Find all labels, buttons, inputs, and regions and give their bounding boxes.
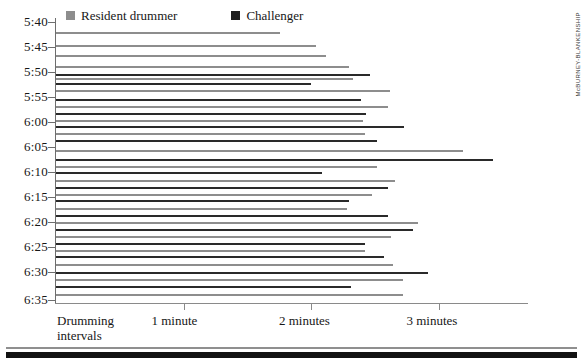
y-axis-tick-label: 5:50 — [0, 65, 48, 78]
y-axis-tick-label: 5:45 — [0, 40, 48, 53]
bar-challenger — [56, 140, 377, 142]
bar-resident-drummer — [56, 236, 391, 238]
bar-resident-drummer — [56, 279, 403, 281]
y-axis-tick-mark — [48, 122, 55, 123]
bar-challenger — [56, 187, 388, 189]
bar-challenger — [56, 159, 493, 161]
y-axis-tick-mark — [48, 197, 55, 198]
x-axis-origin-label-line2: intervals — [57, 328, 127, 343]
y-axis-tick-mark — [48, 300, 55, 301]
x-axis-tick-label: 1 minute — [152, 313, 198, 328]
bar-challenger — [56, 83, 311, 85]
bar-resident-drummer — [56, 106, 388, 108]
y-axis-tick-label: 6:25 — [0, 240, 48, 253]
bar-resident-drummer — [56, 250, 365, 252]
bar-resident-drummer — [56, 180, 395, 182]
y-axis-tick-label: 6:30 — [0, 265, 48, 278]
y-axis-tick-mark — [48, 97, 55, 98]
bar-challenger — [56, 172, 322, 174]
bar-resident-drummer — [56, 150, 463, 152]
x-axis-line — [55, 303, 528, 304]
legend-label-resident: Resident drummer — [81, 9, 177, 22]
chart-legend: Resident drummer Challenger — [66, 9, 303, 22]
bar-resident-drummer — [56, 78, 353, 80]
y-axis-tick-label: 6:10 — [0, 165, 48, 178]
bar-challenger — [56, 113, 366, 115]
y-axis-tick-label: 5:40 — [0, 15, 48, 28]
bar-resident-drummer — [56, 166, 377, 168]
x-axis-tick-mark — [311, 303, 312, 310]
y-axis-tick-label: 6:35 — [0, 293, 48, 306]
bar-resident-drummer — [56, 133, 365, 135]
bar-challenger — [56, 229, 413, 231]
y-axis-tick-label: 6:15 — [0, 190, 48, 203]
bottom-rule-thick — [6, 352, 577, 358]
y-axis-tick-mark — [48, 172, 55, 173]
x-axis-tick-label: Drummingintervals — [57, 313, 127, 343]
chart-container: 5:405:455:505:556:006:056:106:156:206:25… — [0, 0, 583, 363]
x-axis-tick-mark — [439, 303, 440, 310]
bar-challenger — [56, 126, 404, 128]
bar-resident-drummer — [56, 120, 363, 122]
x-axis-tick-label: 3 minutes — [407, 313, 458, 328]
bar-challenger — [56, 286, 351, 288]
legend-label-challenger: Challenger — [246, 9, 303, 22]
y-axis-tick-mark — [48, 22, 55, 23]
bar-resident-drummer — [56, 294, 403, 296]
y-axis-tick-label: 6:00 — [0, 115, 48, 128]
y-axis-tick-label: 6:05 — [0, 140, 48, 153]
legend-item-resident-drummer: Resident drummer — [66, 9, 177, 22]
y-axis-tick-mark — [48, 247, 55, 248]
x-axis-tick-label: 2 minutes — [279, 313, 330, 328]
y-axis-tick-mark — [48, 47, 55, 48]
y-axis-tick-mark — [48, 272, 55, 273]
legend-swatch-resident-icon — [66, 11, 75, 20]
x-axis-origin-label-line1: Drumming — [57, 313, 127, 328]
bottom-rule-thin — [6, 347, 577, 349]
photo-credit: McBURNEY-BLANKENSHIP — [575, 12, 581, 96]
bar-challenger — [56, 243, 365, 245]
bar-resident-drummer — [56, 264, 393, 266]
bar-challenger — [56, 200, 349, 202]
bar-resident-drummer — [56, 208, 347, 210]
y-axis-tick-mark — [48, 72, 55, 73]
bar-resident-drummer — [56, 222, 418, 224]
bar-resident-drummer — [56, 194, 372, 196]
x-axis-tick-mark — [184, 303, 185, 310]
bar-resident-drummer — [56, 32, 280, 34]
y-axis-tick-label: 6:20 — [0, 215, 48, 228]
bar-challenger — [56, 74, 370, 76]
bar-resident-drummer — [56, 90, 390, 92]
y-axis-tick-mark — [48, 147, 55, 148]
bar-challenger — [56, 256, 384, 258]
bar-resident-drummer — [56, 45, 316, 47]
bar-challenger — [56, 272, 428, 274]
legend-swatch-challenger-icon — [231, 11, 240, 20]
bar-challenger — [56, 99, 361, 101]
plot-area: 5:405:455:505:556:006:056:106:156:206:25… — [0, 0, 583, 363]
y-axis-tick-label: 5:55 — [0, 90, 48, 103]
legend-item-challenger: Challenger — [231, 9, 303, 22]
y-axis-tick-mark — [48, 222, 55, 223]
bar-resident-drummer — [56, 66, 349, 68]
bar-resident-drummer — [56, 55, 326, 57]
bar-challenger — [56, 215, 388, 217]
